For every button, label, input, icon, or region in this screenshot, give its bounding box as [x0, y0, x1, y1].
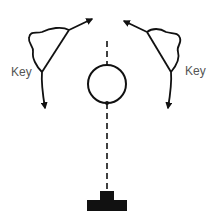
diagram-graphic: [0, 0, 214, 222]
left-key-diagonal: [42, 30, 69, 72]
left-key-arrow-down: [42, 72, 45, 108]
right-key-diagonal: [147, 32, 171, 72]
left-key-arrow-up: [69, 19, 92, 30]
right-key-outline: [147, 29, 180, 72]
diagram-canvas: Key Key: [0, 0, 214, 222]
left-key-label: Key: [11, 66, 32, 78]
right-key-label: Key: [185, 65, 206, 77]
center-circle: [88, 65, 126, 103]
left-key-outline: [29, 28, 69, 72]
right-key-arrow-up: [124, 21, 147, 32]
right-key-arrow-down: [168, 72, 171, 108]
right-key-symbol: [124, 21, 180, 108]
circle-bottom-dot: [105, 101, 109, 105]
base-block: [87, 191, 127, 211]
left-key-symbol: [29, 19, 92, 108]
